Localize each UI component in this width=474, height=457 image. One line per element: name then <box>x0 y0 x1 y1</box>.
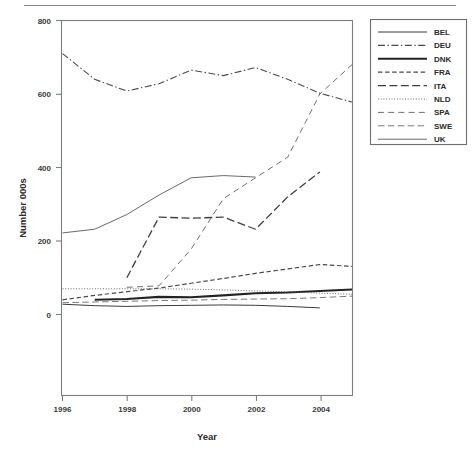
legend-label-fra: FRA <box>434 68 451 77</box>
y-tick-label: 600 <box>38 90 52 99</box>
x-axis-tick-labels: 1996 1998 2000 2002 2004 <box>54 405 331 414</box>
series-line-uk <box>63 176 256 233</box>
x-axis-title: Year <box>197 431 217 442</box>
y-tick-label: 0 <box>47 311 52 320</box>
y-tick-label: 200 <box>38 237 52 246</box>
legend-label-swe: SWE <box>434 122 453 131</box>
legend[interactable]: BELDEUDNKFRAITANLDSPASWEUK <box>371 20 467 145</box>
legend-label-nld: NLD <box>434 95 451 104</box>
line-chart-figure: 800 600 400 200 0 1996 1998 2000 2002 2 <box>0 0 474 457</box>
x-tick-label: 2004 <box>312 405 330 414</box>
x-tick-label: 2002 <box>248 405 266 414</box>
legend-label-bel: BEL <box>434 28 450 37</box>
y-axis-tick-labels: 800 600 400 200 0 <box>38 17 52 320</box>
y-axis-title: Number 000s <box>17 178 28 238</box>
legend-label-uk: UK <box>434 135 446 144</box>
figure-page: 800 600 400 200 0 1996 1998 2000 2002 2 <box>0 0 474 457</box>
x-tick-label: 1996 <box>54 405 72 414</box>
plot-frame <box>62 21 353 396</box>
y-tick-label: 800 <box>38 17 52 26</box>
series-line-bel <box>63 304 320 308</box>
legend-label-spa: SPA <box>434 108 450 117</box>
legend-label-dnk: DNK <box>434 55 452 64</box>
x-tick-label: 1998 <box>118 405 136 414</box>
y-tick-label: 400 <box>38 164 52 173</box>
x-axis-ticks <box>63 396 322 402</box>
legend-label-deu: DEU <box>434 41 451 50</box>
series-line-ita <box>127 172 320 278</box>
series-layer <box>63 54 353 308</box>
legend-label-ita: ITA <box>434 82 447 91</box>
x-tick-label: 2000 <box>183 405 201 414</box>
y-axis-ticks <box>56 21 62 315</box>
series-line-deu <box>63 54 353 103</box>
series-line-fra <box>63 265 353 300</box>
chart-svg: 800 600 400 200 0 1996 1998 2000 2002 2 <box>0 0 474 457</box>
